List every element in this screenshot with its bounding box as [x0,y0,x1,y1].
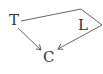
node-l: L [78,18,88,33]
edge-t-to-c [18,28,41,50]
diagram: T L C [0,0,103,74]
node-c: C [43,50,54,65]
node-t: T [9,13,19,28]
